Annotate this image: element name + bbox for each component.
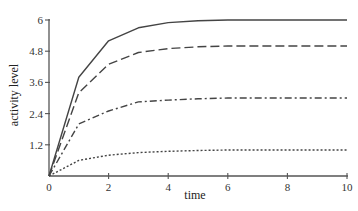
series-line-dashed (49, 46, 347, 176)
y-tick-label: 4.8 (29, 45, 43, 57)
y-axis-label: activity level (7, 63, 21, 126)
x-tick-label: 0 (46, 181, 52, 193)
y-tick-label: 2.4 (29, 108, 43, 120)
series-line-dash-dot (49, 98, 347, 176)
y-tick-label: 1.2 (29, 139, 43, 151)
y-tick-label: 3.6 (29, 76, 43, 88)
x-axis-label: time (184, 188, 205, 202)
series-layer (49, 20, 347, 176)
series-line-dotted (49, 150, 347, 176)
x-tick-label: 8 (285, 181, 291, 193)
x-tick-label: 4 (165, 181, 171, 193)
x-tick-label: 6 (225, 181, 231, 193)
x-tick-label: 2 (106, 181, 112, 193)
line-chart: 1.22.43.64.86 0246810 time activity leve… (0, 0, 358, 211)
x-tick-label: 10 (342, 181, 354, 193)
y-axis: 1.22.43.64.86 (29, 14, 50, 176)
y-tick-label: 6 (38, 14, 44, 26)
